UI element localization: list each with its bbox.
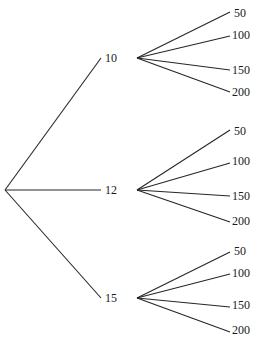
edge-10-100 <box>137 36 230 58</box>
leaf-label-15-50: 50 <box>234 245 246 257</box>
edge-10-50 <box>137 12 230 58</box>
leaf-label-10-200: 200 <box>232 86 250 98</box>
root-edge-15 <box>5 190 101 298</box>
leaf-label-10-150: 150 <box>232 64 250 76</box>
leaf-label-12-50: 50 <box>234 125 246 137</box>
leaf-label-12-100: 100 <box>232 155 250 167</box>
tree-edges-svg <box>0 0 260 340</box>
edge-10-150 <box>137 58 230 70</box>
leaf-label-10-100: 100 <box>232 29 250 41</box>
leaf-label-10-50: 50 <box>234 7 246 19</box>
edge-15-100 <box>137 274 230 298</box>
leaf-label-12-200: 200 <box>232 215 250 227</box>
edge-15-150 <box>137 298 230 307</box>
leaf-label-12-150: 150 <box>232 190 250 202</box>
node-label-10: 10 <box>105 52 117 64</box>
node-label-15: 15 <box>105 292 117 304</box>
leaf-label-15-150: 150 <box>232 299 250 311</box>
node-label-12: 12 <box>105 184 117 196</box>
leaf-label-15-100: 100 <box>232 267 250 279</box>
root-edge-10 <box>5 58 101 190</box>
edges-group <box>5 12 230 332</box>
leaf-label-15-200: 200 <box>232 324 250 336</box>
edge-12-100 <box>137 163 230 190</box>
edge-15-50 <box>137 252 230 298</box>
edge-15-200 <box>137 298 230 332</box>
tree-diagram-canvas: 105010015020012501001502001550100150200 <box>0 0 260 340</box>
edge-10-200 <box>137 58 230 92</box>
edge-12-50 <box>137 130 230 190</box>
